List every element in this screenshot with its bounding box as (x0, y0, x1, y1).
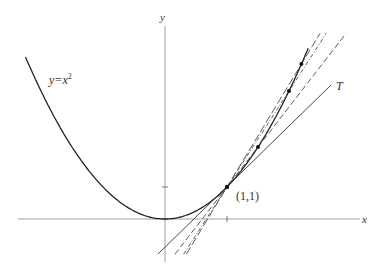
tangent-label: T (336, 80, 343, 92)
secant-point (299, 62, 303, 66)
secant-point (287, 89, 291, 93)
diagram-canvas: y x (1,1) T y=x2 (0, 0, 371, 272)
diagram-svg (0, 0, 371, 272)
curve-label: y=x2 (49, 73, 72, 86)
point-1-1 (225, 185, 229, 189)
y-axis-label: y (160, 12, 165, 23)
secant-line (184, 33, 327, 254)
x-axis-label: x (362, 214, 367, 225)
secant-lines (175, 33, 346, 254)
secant-line (175, 33, 346, 254)
secant-point (256, 145, 260, 149)
tangent-line (158, 85, 331, 254)
curve-label-base: y=x (49, 73, 68, 87)
curve-label-exponent: 2 (68, 72, 72, 81)
point-label: (1,1) (236, 190, 259, 202)
